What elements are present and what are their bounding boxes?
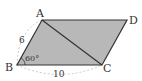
vertex-label-b: B (5, 61, 13, 74)
vertex-label-a: A (35, 7, 45, 20)
angle-b-value: 60° (25, 54, 39, 63)
side-bc-length: 10 (53, 69, 65, 79)
vertex-label-d: D (129, 14, 138, 27)
parallelogram-diagram: A D B C 6 60° 10 (0, 0, 142, 81)
side-ab-length: 6 (19, 35, 25, 45)
vertex-label-c: C (103, 62, 111, 75)
